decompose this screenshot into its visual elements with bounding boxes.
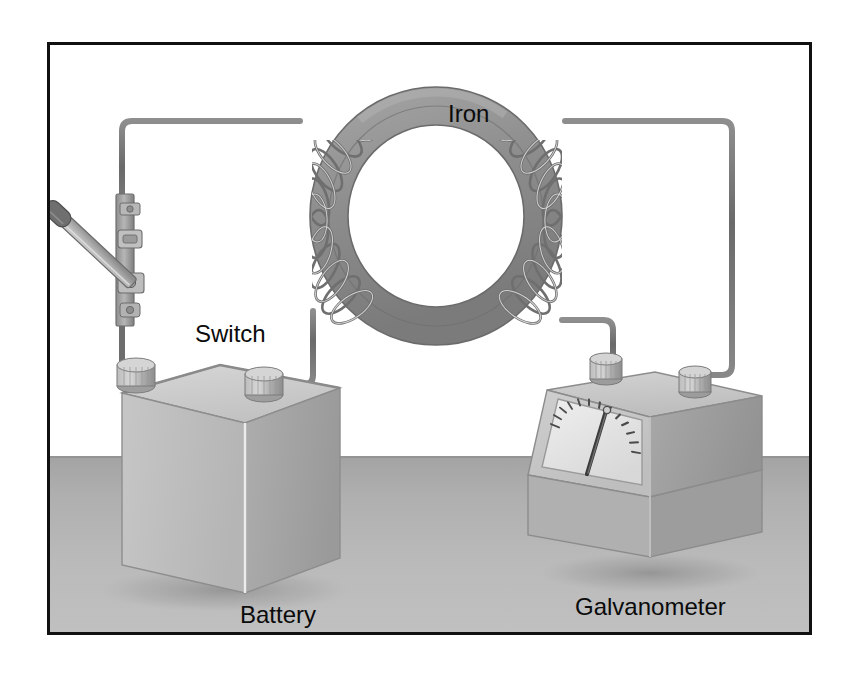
- circuit-diagram-illustration: [50, 45, 809, 632]
- galvanometer-terminal-right: [679, 366, 711, 398]
- galvanometer: [528, 353, 762, 557]
- label-battery: Battery: [240, 601, 316, 629]
- figure-canvas: Iron Switch Battery Galvanometer: [0, 0, 855, 673]
- diagram-frame: Iron Switch Battery Galvanometer: [47, 42, 812, 635]
- switch-lower-terminal: [120, 303, 140, 317]
- switch-upper-contact: [120, 203, 140, 215]
- iron-ring: [310, 87, 562, 345]
- label-galvanometer: Galvanometer: [575, 593, 726, 621]
- label-iron: Iron: [448, 100, 489, 128]
- galvanometer-shadow: [540, 553, 760, 593]
- switch[interactable]: [50, 194, 144, 326]
- battery: [117, 358, 340, 593]
- label-switch: Switch: [195, 320, 266, 348]
- switch-contact-jaw: [118, 230, 142, 248]
